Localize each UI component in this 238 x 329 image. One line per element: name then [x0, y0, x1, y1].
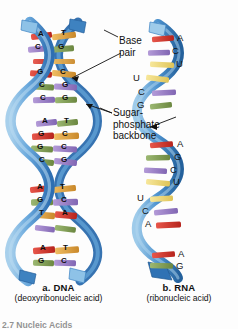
- dna-base-label: T: [61, 29, 66, 37]
- rna-base-label: C: [138, 87, 145, 97]
- dna-base-label: G: [38, 130, 44, 138]
- dna-base-label: C: [61, 257, 67, 265]
- dna-base-label: C: [62, 130, 68, 138]
- rna-base-label: C: [170, 165, 177, 175]
- dna-base-label: G: [38, 257, 44, 265]
- rna-base-label: U: [173, 177, 180, 187]
- dna-base-label: A: [42, 117, 48, 125]
- rna-base-label: G: [176, 261, 183, 271]
- nucleic-acid-figure: A T C G G C C G C G A T G C G C C G A T …: [0, 0, 238, 329]
- dna-base-label: C: [39, 81, 45, 89]
- dna-base-label: G: [61, 156, 67, 164]
- annotation-backbone-line1: Sugar-: [113, 107, 175, 119]
- annotation-base-pair: Base pair: [119, 35, 179, 58]
- rna-base-label: A: [178, 249, 184, 259]
- dna-base-label: G: [37, 196, 43, 204]
- dna-base-label: A: [37, 183, 43, 191]
- dna-base-label: A: [62, 209, 68, 217]
- dna-base-label: A: [38, 30, 44, 38]
- dna-base-label: G: [62, 81, 68, 89]
- dna-base-label: C: [40, 94, 46, 102]
- rna-base-label: U: [137, 193, 144, 203]
- dna-base-label: G: [62, 94, 68, 102]
- rna-base-label: A: [177, 139, 183, 149]
- rna-base-label: G: [174, 152, 181, 162]
- annotation-base-pair-line2: pair: [119, 47, 179, 59]
- dna-base-label: G: [58, 43, 64, 51]
- annotation-sugar-phosphate-backbone: Sugar- phosphate backbone: [113, 107, 175, 142]
- dna-base-label: C: [60, 68, 66, 76]
- caption-dna-subtitle: (deoxyribonucleic acid): [0, 294, 117, 304]
- rna-base-label: C: [142, 206, 149, 216]
- annotation-backbone-line2: phosphate: [113, 119, 175, 131]
- figure-number-caption: 2.7 Nucleic Acids: [2, 320, 152, 329]
- dna-base-label: T: [60, 183, 65, 191]
- annotation-base-pair-line1: Base: [119, 35, 179, 47]
- dna-base-label: C: [39, 156, 45, 164]
- dna-base-label: G: [37, 68, 43, 76]
- caption-dna-panel: a. DNA (deoxyribonucleic acid): [0, 283, 117, 303]
- annotation-backbone-line3: backbone: [113, 130, 175, 142]
- rna-base-label: A: [145, 219, 151, 229]
- dna-base-label: T: [63, 244, 68, 252]
- dna-base-label: T: [39, 209, 44, 217]
- caption-rna-subtitle: (ribonucleic acid): [120, 294, 238, 304]
- rna-base-label: U: [176, 59, 183, 69]
- dna-base-label: C: [61, 196, 67, 204]
- dna-base-label: C: [35, 43, 41, 51]
- dna-base-label: C: [61, 143, 67, 151]
- caption-rna-panel: b. RNA (ribonucleic acid): [120, 283, 238, 303]
- dna-base-label: T: [64, 117, 69, 125]
- dna-base-label: G: [37, 143, 43, 151]
- dna-base-label: A: [40, 244, 46, 252]
- rna-base-label: U: [133, 73, 140, 83]
